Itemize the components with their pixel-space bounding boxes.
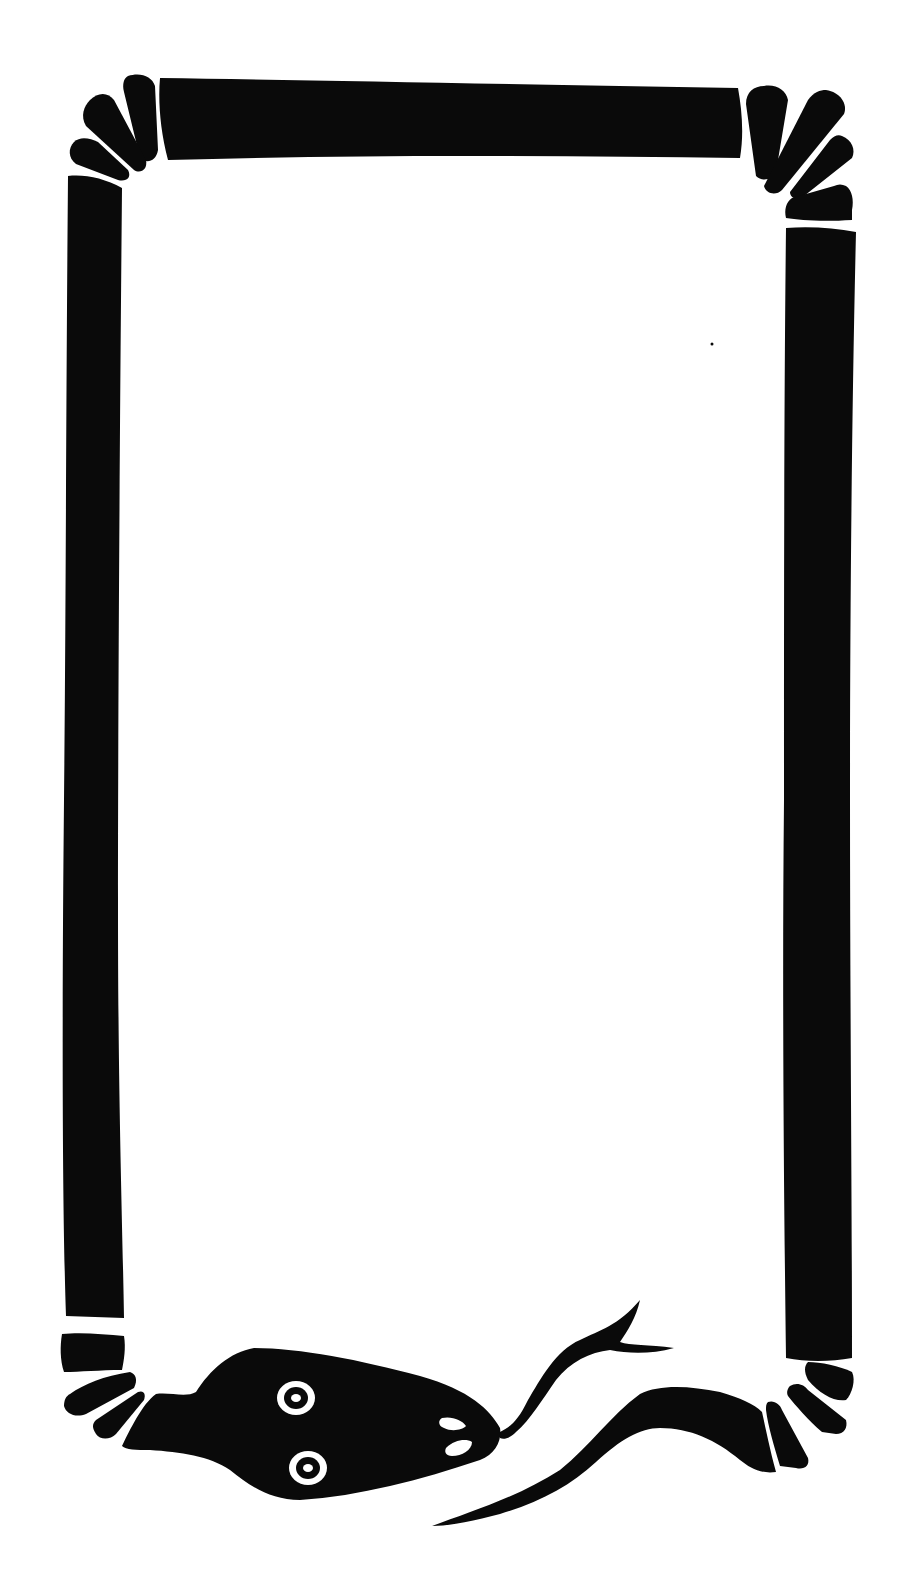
snake-head — [122, 1348, 500, 1500]
snake-eye-lower — [289, 1451, 327, 1485]
top-body-bar — [159, 78, 742, 160]
snake-frame-illustration — [0, 0, 922, 1586]
ink-speck — [711, 343, 714, 346]
right-body-bar — [783, 227, 856, 1361]
left-body-bar — [63, 176, 124, 1319]
snake-eye-upper — [277, 1381, 315, 1415]
scale-bottom-left-1 — [61, 1333, 125, 1372]
